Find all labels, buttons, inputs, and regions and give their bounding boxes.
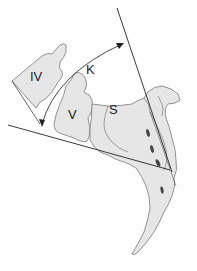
arrowhead-bottom-icon <box>39 119 45 127</box>
label-sacrum: S <box>109 103 118 116</box>
sacrum <box>90 86 180 255</box>
label-angle-k: K <box>86 63 95 76</box>
diagram-canvas <box>0 0 197 271</box>
lumbosacral-angle-diagram: IV V S K <box>0 0 197 271</box>
label-vertebra-v: V <box>68 108 77 121</box>
label-vertebra-iv: IV <box>30 70 42 83</box>
